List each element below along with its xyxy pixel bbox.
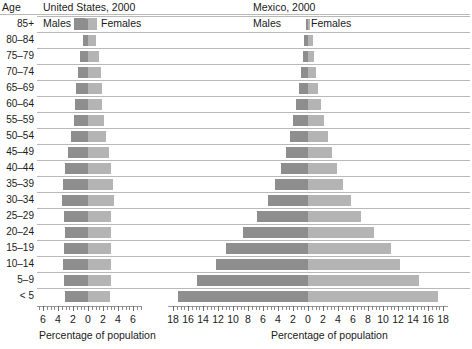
bar-male — [65, 163, 88, 174]
axis-tick-label: 16 — [422, 313, 434, 325]
axis-tick-label: 14 — [407, 313, 419, 325]
bar-female — [308, 243, 391, 254]
axis-tick-minor — [84, 306, 85, 310]
bar-female — [88, 35, 96, 46]
bar-female — [308, 227, 374, 238]
axis-tick-minor — [286, 306, 287, 310]
axis-tick-minor — [184, 306, 185, 310]
axis-tick-minor — [342, 306, 343, 310]
axis-tick-major — [88, 306, 89, 311]
plot-area: 85+80–8475–7970–7465–6960–6455–5950–5445… — [0, 14, 472, 306]
bar-male — [226, 243, 309, 254]
axis-tick-minor — [372, 306, 373, 310]
axis-tick-minor — [297, 306, 298, 310]
axis-tick-major — [308, 306, 309, 311]
axis-tick-label: 0 — [85, 313, 91, 325]
bar-female — [308, 131, 328, 142]
axis-tick-minor — [107, 306, 108, 310]
axis-tick-label: 18 — [437, 313, 449, 325]
axis-tick-minor — [244, 306, 245, 310]
axis-tick-minor — [69, 306, 70, 310]
bar-male — [286, 147, 309, 158]
gridline — [37, 176, 470, 177]
axis-tick-major — [103, 306, 104, 311]
bar-female — [88, 275, 111, 286]
age-group-row: 10–14 — [0, 256, 472, 272]
axis-tick-minor — [111, 306, 112, 310]
age-group-label: 15–19 — [0, 242, 34, 253]
axis-tick-minor — [331, 306, 332, 310]
bar-male — [64, 243, 88, 254]
age-group-row: 80–84 — [0, 32, 472, 48]
bar-male — [290, 131, 308, 142]
axis-tick-minor — [77, 306, 78, 310]
axis-tick-label: 14 — [197, 313, 209, 325]
axis-tick-label: 2 — [290, 313, 296, 325]
axis-tick-label: 4 — [275, 313, 281, 325]
bar-female — [88, 83, 102, 94]
bar-female — [308, 99, 321, 110]
age-group-label: 80–84 — [0, 34, 34, 45]
axis-tick-label: 6 — [130, 313, 136, 325]
axis-tick-minor — [129, 306, 130, 310]
axis-tick-minor — [122, 306, 123, 310]
axis-tick-minor — [192, 306, 193, 310]
bar-female — [308, 179, 343, 190]
axis-tick-major — [398, 306, 399, 311]
bar-male — [68, 147, 88, 158]
axis-tick-minor — [274, 306, 275, 310]
bar-female — [308, 195, 351, 206]
axis-tick-major — [413, 306, 414, 311]
axis-tick-major — [383, 306, 384, 311]
bar-male — [197, 275, 308, 286]
axis-tick-minor — [66, 306, 67, 310]
gridline — [37, 112, 470, 113]
age-group-row: 25–29 — [0, 208, 472, 224]
axis-tick-minor — [402, 306, 403, 310]
bar-female — [88, 147, 109, 158]
gridline — [37, 144, 470, 145]
axis-tick-major — [233, 306, 234, 311]
gridline — [37, 48, 470, 49]
axis-tick-major — [133, 306, 134, 311]
axis-tick-minor — [417, 306, 418, 310]
bar-male — [268, 195, 309, 206]
bar-female — [88, 67, 101, 78]
axis-tick-minor — [252, 306, 253, 310]
left-axis-title: Percentage of population — [39, 329, 156, 341]
axis-tick-minor — [394, 306, 395, 310]
bar-female — [88, 51, 99, 62]
age-group-label: 45–49 — [0, 146, 34, 157]
age-group-row: 75–79 — [0, 48, 472, 64]
age-group-label: 40–44 — [0, 162, 34, 173]
axis-tick-label: 4 — [115, 313, 121, 325]
axis-tick-minor — [432, 306, 433, 310]
axis-tick-major — [118, 306, 119, 311]
age-group-row: 35–39 — [0, 176, 472, 192]
axis-tick-major — [188, 306, 189, 311]
axis-tick-label: 18 — [167, 313, 179, 325]
gridline — [37, 192, 470, 193]
bar-male — [74, 115, 88, 126]
left-chart-title: United States, 2000 — [43, 1, 135, 13]
axis-tick-label: 2 — [320, 313, 326, 325]
axis-tick-label: 6 — [260, 313, 266, 325]
axis-tick-minor — [256, 306, 257, 310]
axis-tick-minor — [47, 306, 48, 310]
bar-female — [308, 115, 324, 126]
gridline — [37, 160, 470, 161]
age-group-label: 55–59 — [0, 114, 34, 125]
right-chart-title: Mexico, 2000 — [253, 1, 315, 13]
right-tick-labels: 18161412108642024681012141618 — [150, 313, 472, 327]
bar-male — [64, 275, 88, 286]
axis-tick-minor — [421, 306, 422, 310]
axis-tick-minor — [346, 306, 347, 310]
axis-tick-minor — [214, 306, 215, 310]
axis-tick-minor — [96, 306, 97, 310]
age-group-row: 65–69 — [0, 80, 472, 96]
bar-male — [63, 259, 88, 270]
axis-tick-minor — [349, 306, 350, 310]
axis-tick-label: 6 — [40, 313, 46, 325]
axis-tick-label: 10 — [227, 313, 239, 325]
axis-tick-minor — [126, 306, 127, 310]
